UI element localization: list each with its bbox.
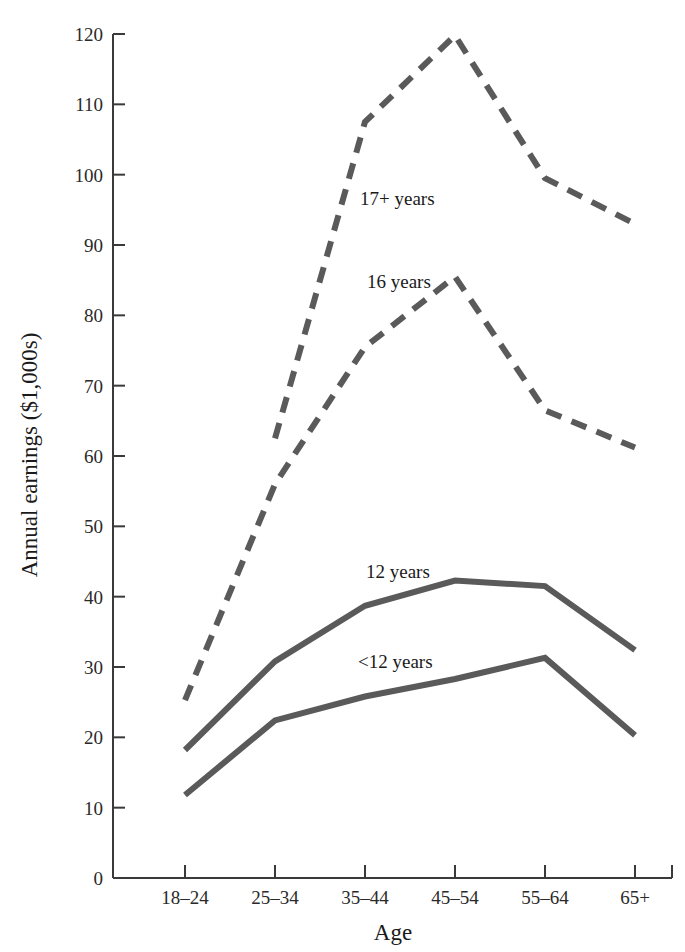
- x-axis-title: Age: [374, 920, 412, 945]
- x-tick-label: 35–44: [341, 887, 389, 908]
- y-tick-label: 20: [84, 727, 103, 748]
- x-tick-label: 65+: [620, 887, 650, 908]
- y-tick-label: 60: [84, 446, 103, 467]
- y-tick-label: 80: [84, 305, 103, 326]
- x-tick-label: 25–34: [251, 887, 299, 908]
- series-label: 12 years: [366, 561, 430, 582]
- series-label: <12 years: [358, 651, 433, 672]
- y-tick-label: 30: [84, 657, 103, 678]
- series-label: 16 years: [367, 271, 431, 292]
- y-tick-label: 70: [84, 376, 103, 397]
- y-axis-ticks: 0102030405060708090100110120: [75, 24, 126, 889]
- x-tick-label: 55–64: [521, 887, 569, 908]
- y-tick-label: 40: [84, 587, 103, 608]
- series-line: [185, 658, 635, 795]
- x-axis-ticks: 18–2425–3435–4445–5455–6465+: [113, 34, 672, 908]
- x-tick-label: 18–24: [161, 887, 209, 908]
- x-tick-label: 45–54: [431, 887, 479, 908]
- y-tick-label: 10: [84, 798, 103, 819]
- y-tick-label: 0: [94, 868, 104, 889]
- earnings-by-age-chart: 0102030405060708090100110120 18–2425–343…: [0, 0, 685, 952]
- y-tick-label: 100: [75, 165, 104, 186]
- y-tick-label: 110: [75, 94, 103, 115]
- series-lines: [185, 35, 635, 795]
- y-axis-title: Annual earnings ($1,000s): [17, 333, 42, 578]
- chart-canvas: 0102030405060708090100110120 18–2425–343…: [0, 0, 685, 952]
- y-tick-label: 120: [75, 24, 104, 45]
- series-label: 17+ years: [360, 188, 435, 209]
- y-tick-label: 50: [84, 516, 103, 537]
- series-line: [275, 35, 635, 438]
- series-line: [185, 277, 635, 700]
- y-tick-label: 90: [84, 235, 103, 256]
